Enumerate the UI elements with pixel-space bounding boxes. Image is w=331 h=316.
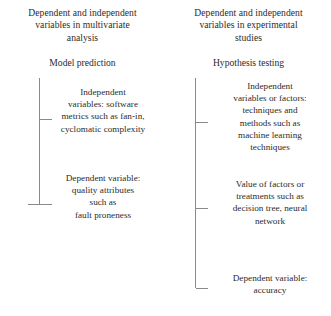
right-branch-1-line-1: Independent [210,80,330,92]
right-branch-3-text: Dependent variable: accuracy [210,272,330,296]
right-branch-1-line-6: techniques [210,141,330,153]
right-column: Dependent and independent variables in e… [166,0,331,316]
right-branch-2-line-3: decision tree, neural [210,202,330,214]
left-column: Dependent and independent variables in m… [0,0,165,316]
right-branch-2-line-1: Value of factors or [210,178,330,190]
right-branch-2-line-2: treatments such as [210,190,330,202]
right-bracket [166,0,331,316]
left-branch-2-line-1: Dependent variable: [44,172,162,184]
left-branch-1-line-3: metrics such as fan-in, [44,110,162,122]
right-branch-3-line-2: accuracy [210,284,330,296]
left-bracket [0,0,165,316]
left-branch-2-line-4: fault proneness [44,209,162,221]
left-branch-1-line-1: Independent [44,86,162,98]
right-branch-2-line-4: network [210,215,330,227]
left-branch-1-line-2: variables: software [44,98,162,110]
left-branch-1-text: Independent variables: software metrics … [44,86,162,135]
right-branch-1-line-3: techniques and [210,104,330,116]
diagram-canvas: Dependent and independent variables in m… [0,0,331,316]
left-branch-2-line-3: such as [44,196,162,208]
right-branch-1-line-4: methods such as [210,117,330,129]
left-branch-1-line-4: cyclomatic complexity [44,123,162,135]
right-branch-1-line-5: machine learning [210,129,330,141]
left-branch-2-text: Dependent variable: quality attributes s… [44,172,162,221]
right-branch-1-text: Independent variables or factors: techni… [210,80,330,153]
right-branch-2-text: Value of factors or treatments such as d… [210,178,330,227]
right-branch-1-line-2: variables or factors: [210,92,330,104]
left-branch-2-line-2: quality attributes [44,184,162,196]
right-branch-3-line-1: Dependent variable: [210,272,330,284]
